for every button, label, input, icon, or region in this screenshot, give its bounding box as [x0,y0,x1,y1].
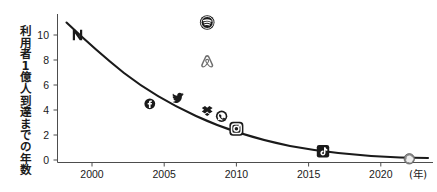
twitter-bird-icon [172,93,184,103]
tiktok-icon [317,145,329,157]
x-tick-label-2020: 2020 [369,168,393,180]
napster-icon [73,30,82,40]
spotify-icon [200,15,215,30]
dropbox-icon [202,106,213,116]
y-tick-label-0: 0 [43,154,49,166]
data-point-instagram [229,122,243,136]
x-axis-ticks [92,163,381,167]
data-point-facebook [144,98,155,109]
data-point-whatsapp [216,111,227,122]
data-point-tiktok [317,145,329,157]
airbnb-icon [201,55,213,67]
chart-container: 利用者1億人到達までの年数 0 2 4 6 8 10 [0,0,437,192]
y-tick-label-6: 6 [43,79,49,91]
x-tick-label-2015: 2015 [297,168,321,180]
data-point-airbnb [201,55,213,67]
data-point-napster [73,30,82,40]
trend-curve [67,23,429,159]
x-axis-unit-label: (年) [409,168,427,180]
y-axis-ticks [54,35,58,160]
chatgpt-icon [404,154,414,164]
facebook-icon [144,98,155,109]
y-tick-label-8: 8 [43,54,49,66]
data-point-dropbox [202,106,213,116]
y-axis-tick-labels: 0 2 4 6 8 10 [37,29,49,166]
x-tick-label-2010: 2010 [225,168,249,180]
chart-plot-area: 0 2 4 6 8 10 2000 2005 2010 2015 2020 (年… [0,0,437,192]
y-tick-label-4: 4 [43,104,49,116]
x-tick-label-2005: 2005 [153,168,177,180]
data-point-twitter [172,93,184,103]
x-axis-tick-labels: 2000 2005 2010 2015 2020 (年) [80,168,427,180]
data-point-chatgpt [404,154,414,164]
x-tick-label-2000: 2000 [80,168,104,180]
instagram-icon [229,122,243,136]
data-points [73,15,415,164]
y-tick-label-10: 10 [37,29,49,41]
whatsapp-icon [216,111,227,122]
y-tick-label-2: 2 [43,129,49,141]
data-point-spotify [200,15,215,30]
